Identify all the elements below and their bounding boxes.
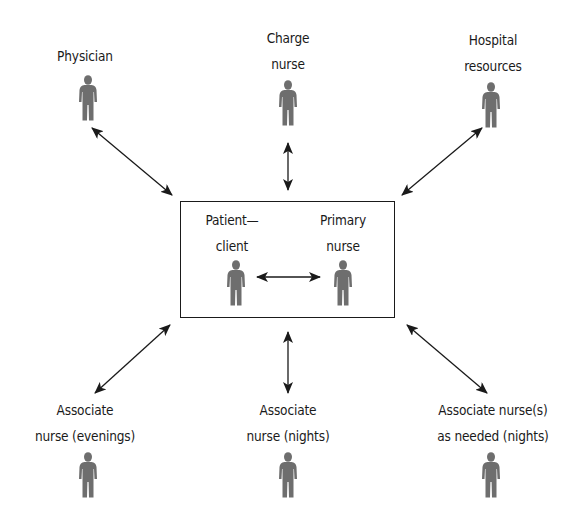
- diagram-canvas: Physician Charge nurse Hospital resource…: [0, 0, 572, 525]
- edge-hospital-resources: [402, 128, 482, 195]
- person-icon: [79, 75, 97, 120]
- node-hospital-resources-label: Hospital resources: [464, 27, 522, 79]
- person-icon: [482, 452, 500, 497]
- person-icon: [79, 452, 97, 497]
- edge-physician: [92, 128, 172, 195]
- person-icon: [482, 82, 500, 127]
- node-associate-evenings-label: Associate nurse (evenings): [35, 397, 135, 449]
- node-associate-nights-label: Associate nurse (nights): [247, 397, 330, 449]
- person-icon: [279, 80, 297, 125]
- node-primary-nurse-label: Primary nurse: [320, 207, 366, 259]
- edge-associate-as-needed: [407, 325, 487, 393]
- node-associate-as-needed-label: Associate nurse(s) as needed (nights): [437, 397, 548, 449]
- node-patient-client-label: Patient— client: [205, 207, 258, 259]
- node-charge-nurse-label: Charge nurse: [267, 25, 310, 77]
- edge-associate-evenings: [95, 325, 170, 393]
- person-icon: [279, 452, 297, 497]
- node-physician-label: Physician: [57, 43, 113, 69]
